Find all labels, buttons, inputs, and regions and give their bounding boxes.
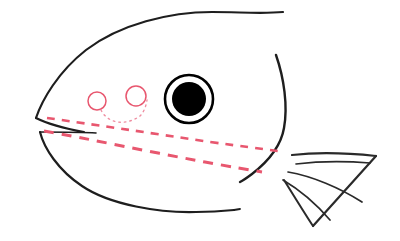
eye-pupil — [172, 82, 206, 116]
drawing-canvas — [0, 0, 400, 241]
fish-head-illustration — [0, 0, 400, 241]
belly-outline — [234, 209, 240, 210]
eye-group — [165, 75, 213, 123]
